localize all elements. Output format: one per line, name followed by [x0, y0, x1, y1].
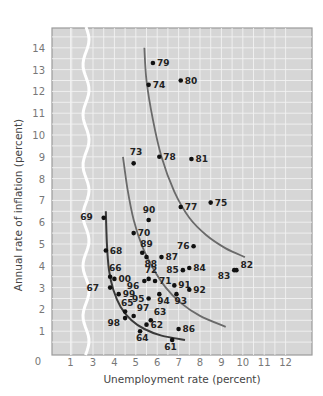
svg-text:98: 98 [108, 318, 121, 328]
x-tick-labels: 13456789101112 [67, 357, 292, 368]
svg-text:82: 82 [240, 260, 253, 270]
svg-text:4: 4 [111, 357, 117, 368]
svg-text:81: 81 [195, 154, 208, 164]
svg-text:10: 10 [32, 130, 45, 141]
svg-text:1: 1 [39, 326, 45, 337]
svg-text:64: 64 [136, 333, 149, 343]
svg-text:85: 85 [166, 265, 179, 275]
svg-text:2: 2 [39, 304, 45, 315]
x-axis-label: Unemployment rate (percent) [52, 373, 312, 385]
svg-text:13: 13 [32, 65, 45, 76]
svg-text:11: 11 [258, 357, 271, 368]
svg-text:80: 80 [185, 76, 198, 86]
y-axis-label-text: Annual rate of inflation (percent) [12, 119, 24, 291]
svg-text:3: 3 [39, 283, 45, 294]
svg-text:10: 10 [236, 357, 249, 368]
svg-text:4: 4 [39, 261, 45, 272]
svg-text:99: 99 [123, 289, 136, 299]
svg-text:75: 75 [215, 198, 228, 208]
svg-text:66: 66 [109, 263, 122, 273]
svg-text:77: 77 [185, 202, 198, 212]
svg-text:97: 97 [137, 303, 150, 313]
svg-text:87: 87 [165, 252, 178, 262]
svg-text:93: 93 [174, 296, 187, 306]
svg-text:67: 67 [87, 283, 100, 293]
svg-text:5: 5 [39, 239, 45, 250]
svg-text:76: 76 [177, 241, 190, 251]
svg-text:6: 6 [39, 217, 45, 228]
svg-text:1: 1 [67, 357, 73, 368]
svg-text:5: 5 [133, 357, 139, 368]
svg-text:88: 88 [145, 259, 158, 269]
svg-text:12: 12 [32, 86, 45, 97]
phillips-curve-chart: 6162636465666768697071727374757677787980… [0, 0, 323, 396]
svg-text:90: 90 [143, 205, 156, 215]
svg-text:8: 8 [39, 174, 45, 185]
svg-text:74: 74 [153, 80, 166, 90]
svg-text:8: 8 [197, 357, 203, 368]
svg-text:83: 83 [218, 271, 231, 281]
svg-text:11: 11 [32, 108, 45, 119]
svg-text:78: 78 [163, 152, 176, 162]
svg-text:68: 68 [110, 246, 123, 256]
svg-text:7: 7 [39, 195, 45, 206]
svg-text:71: 71 [159, 276, 172, 286]
svg-text:12: 12 [279, 357, 292, 368]
svg-text:84: 84 [193, 263, 206, 273]
svg-text:89: 89 [140, 239, 153, 249]
svg-text:6: 6 [154, 357, 160, 368]
svg-text:92: 92 [193, 285, 206, 295]
svg-text:79: 79 [157, 58, 170, 68]
svg-text:86: 86 [183, 324, 196, 334]
svg-text:63: 63 [154, 307, 167, 317]
svg-text:00: 00 [118, 274, 131, 284]
svg-text:0: 0 [35, 356, 41, 367]
svg-text:7: 7 [175, 357, 181, 368]
y-tick-labels: 01234567891011121314 [32, 43, 45, 367]
svg-text:69: 69 [80, 212, 93, 222]
svg-text:3: 3 [90, 357, 96, 368]
svg-text:70: 70 [138, 228, 151, 238]
svg-text:73: 73 [130, 147, 143, 157]
svg-text:9: 9 [39, 152, 45, 163]
svg-text:61: 61 [164, 342, 177, 352]
svg-text:9: 9 [218, 357, 224, 368]
svg-text:14: 14 [32, 43, 45, 54]
svg-text:94: 94 [157, 296, 170, 306]
y-axis-label: Annual rate of inflation (percent) [6, 60, 30, 350]
